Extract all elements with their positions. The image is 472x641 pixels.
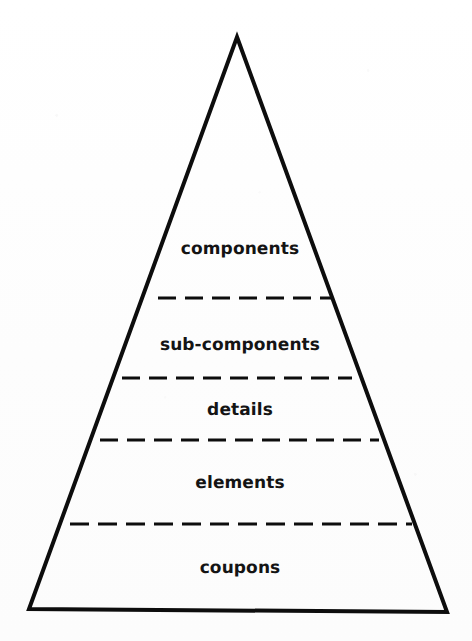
tier-label-details: details: [207, 400, 273, 420]
tier-label-sub-components: sub-components: [160, 335, 320, 355]
pyramid-outline: [29, 37, 447, 612]
tier-label-elements: elements: [195, 473, 284, 493]
pyramid-graphic: [0, 0, 472, 641]
pyramid-diagram: components sub-components details elemen…: [0, 0, 472, 641]
tier-label-coupons: coupons: [200, 558, 281, 578]
tier-label-components: components: [181, 239, 299, 259]
